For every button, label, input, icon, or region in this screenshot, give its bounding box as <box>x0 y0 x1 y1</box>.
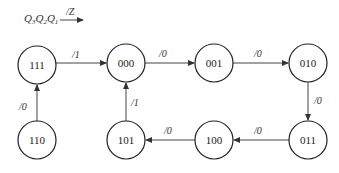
edge-label-001-010: /0 <box>253 48 262 59</box>
legend: Q3Q2Q1 /Z <box>24 6 83 26</box>
svg-text:101: 101 <box>118 134 135 146</box>
edge-label-111-000: /1 <box>71 49 80 60</box>
state-000: 000 <box>107 44 145 82</box>
edge-label-101-000: /1 <box>130 97 139 108</box>
svg-text:000: 000 <box>118 57 135 69</box>
edge-label-010-011: /0 <box>313 95 322 106</box>
state-diagram: Q3Q2Q1 /Z /1 /0 /0 /0 /0 /0 /1 /0 <box>0 0 339 173</box>
state-111: 111 <box>18 46 56 84</box>
state-011: 011 <box>289 121 327 159</box>
edge-label-000-001: /0 <box>158 48 167 59</box>
svg-text:010: 010 <box>300 57 317 69</box>
edge-label-100-101: /0 <box>163 125 172 136</box>
state-001: 001 <box>195 44 233 82</box>
svg-text:100: 100 <box>206 134 223 146</box>
edge-label-011-100: /0 <box>253 125 262 136</box>
legend-state-vars: Q3Q2Q1 <box>24 12 58 26</box>
legend-output-label: /Z <box>65 6 75 17</box>
state-010: 010 <box>289 44 327 82</box>
state-110: 110 <box>18 121 56 159</box>
svg-text:110: 110 <box>29 134 46 146</box>
transitions: /1 /0 /0 /0 /0 /0 /1 /0 <box>18 48 322 140</box>
state-100: 100 <box>195 121 233 159</box>
edge-label-110-111: /0 <box>18 101 27 112</box>
svg-text:011: 011 <box>300 134 316 146</box>
svg-text:001: 001 <box>206 57 223 69</box>
svg-text:111: 111 <box>29 59 45 71</box>
states: 111 000 001 010 011 100 101 110 <box>18 44 327 159</box>
state-101: 101 <box>107 121 145 159</box>
